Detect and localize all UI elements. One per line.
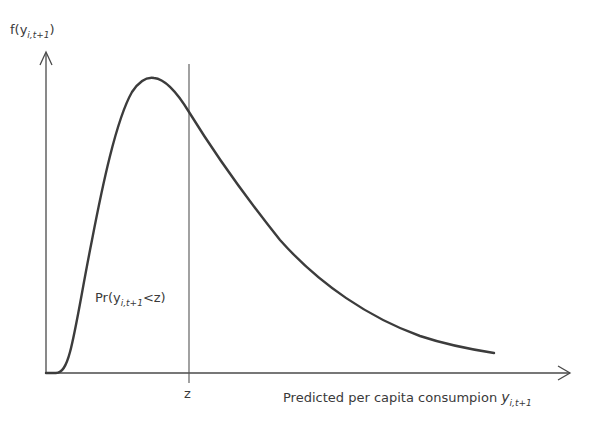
poverty-line-label: z (184, 387, 191, 400)
probability-annotation: Pr(yi,t+1<z) (95, 291, 166, 304)
x-axis-label-variable: y (501, 389, 509, 405)
y-axis-label-suffix: ) (50, 22, 55, 37)
y-axis-label-subscript: i,t+1 (27, 30, 49, 40)
probability-annotation-suffix: <z) (143, 290, 166, 305)
probability-annotation-subscript: i,t+1 (121, 298, 143, 308)
x-axis-label-subscript: i,t+1 (510, 398, 532, 408)
probability-annotation-prefix: Pr(y (95, 290, 121, 305)
y-axis-label: f(yi,t+1) (10, 23, 55, 36)
density-curve (46, 78, 494, 373)
x-axis-label: Predicted per capita consumpion yi,t+1 (283, 390, 532, 404)
density-chart (0, 0, 604, 426)
x-axis-label-text: Predicted per capita consumpion (283, 390, 501, 405)
y-axis-label-prefix: f(y (10, 22, 27, 37)
